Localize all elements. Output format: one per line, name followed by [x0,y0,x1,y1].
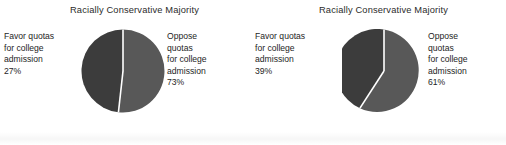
pie-label-oppose-line-1: Oppose [428,31,468,43]
pie-label-favor-percent: 39% [255,66,305,78]
chart-title-right: Racially Conservative Majority [253,5,506,15]
chart-title-left: Racially Conservative Majority [0,5,261,15]
pie-label-favor-line-3: admission [255,54,305,66]
pie-label-oppose-percent: 61% [428,77,468,89]
pie-chart-left [81,29,165,113]
pie-chart-right [342,29,426,113]
pie-slice-favor-left [81,29,123,112]
pie-label-oppose-line-1: Oppose [167,31,207,43]
pie-chart-figure: Racially Conservative Majority Favor quo… [0,0,506,145]
pie-label-favor-line-2: for college [4,43,54,55]
pie-svg-left [81,29,165,113]
pie-label-favor-percent: 27% [4,66,54,78]
pie-label-oppose-line-3: for college [167,54,207,66]
pie-label-favor-right: Favor quotas for college admission 39% [255,31,305,77]
pie-label-oppose-line-2: quotas [167,43,207,55]
chart-panel-left: Racially Conservative Majority Favor quo… [0,0,253,145]
pie-label-favor-left: Favor quotas for college admission 27% [4,31,54,77]
pie-label-oppose-right: Oppose quotas for college admission 61% [428,31,468,89]
pie-label-favor-line-2: for college [255,43,305,55]
pie-label-oppose-line-2: quotas [428,43,468,55]
pie-label-favor-line-1: Favor quotas [4,31,54,43]
pie-label-oppose-percent: 73% [167,77,207,89]
pie-label-oppose-line-4: admission [167,66,207,78]
pie-label-oppose-left: Oppose quotas for college admission 73% [167,31,207,89]
pie-label-oppose-line-4: admission [428,66,468,78]
pie-label-favor-line-1: Favor quotas [255,31,305,43]
chart-panel-right: Racially Conservative Majority Favor quo… [253,0,506,145]
pie-label-oppose-line-3: for college [428,54,468,66]
pie-svg-right [342,29,426,113]
pie-label-favor-line-3: admission [4,54,54,66]
pie-slice-oppose-left [118,30,164,113]
